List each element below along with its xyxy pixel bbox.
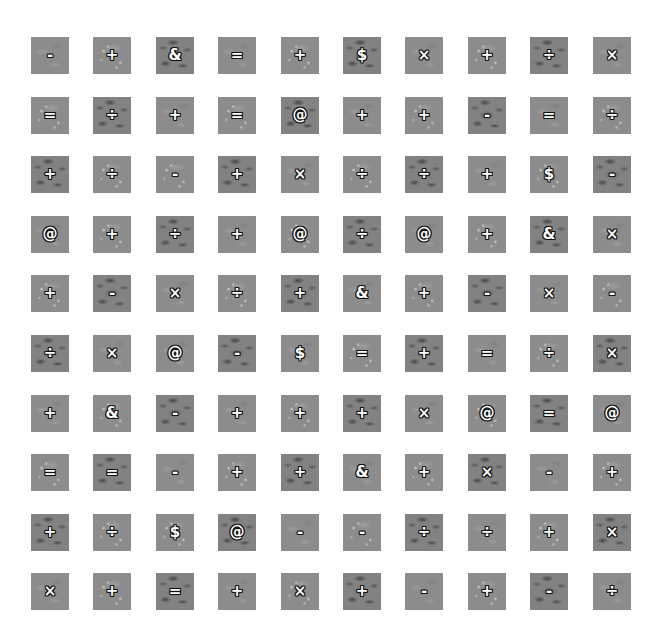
grid-tile[interactable]: - <box>593 156 631 193</box>
grid-tile[interactable]: + <box>156 97 194 134</box>
grid-tile[interactable]: + <box>31 156 69 193</box>
grid-tile[interactable]: & <box>156 37 194 74</box>
grid-tile[interactable]: - <box>530 573 568 610</box>
grid-tile[interactable]: ÷ <box>31 335 69 372</box>
grid-tile[interactable]: - <box>530 454 568 491</box>
grid-tile[interactable]: + <box>31 275 69 312</box>
grid-tile[interactable]: - <box>468 97 506 134</box>
grid-tile[interactable]: & <box>343 454 381 491</box>
grid-tile[interactable]: + <box>281 454 319 491</box>
grid-tile[interactable]: @ <box>593 395 631 432</box>
grid-tile[interactable]: + <box>281 37 319 74</box>
grid-tile[interactable]: × <box>31 573 69 610</box>
grid-tile[interactable]: ÷ <box>218 275 256 312</box>
grid-tile[interactable]: = <box>218 97 256 134</box>
grid-tile[interactable]: ÷ <box>530 37 568 74</box>
grid-tile[interactable]: $ <box>281 335 319 372</box>
grid-tile[interactable]: - <box>31 37 69 74</box>
grid-tile[interactable]: @ <box>405 216 443 253</box>
grid-tile[interactable]: + <box>343 97 381 134</box>
grid-tile[interactable]: + <box>218 454 256 491</box>
grid-tile[interactable]: + <box>31 395 69 432</box>
grid-tile[interactable]: $ <box>530 156 568 193</box>
grid-tile[interactable]: - <box>593 275 631 312</box>
grid-tile[interactable]: = <box>468 335 506 372</box>
grid-tile[interactable]: @ <box>218 514 256 551</box>
grid-tile[interactable]: = <box>530 395 568 432</box>
grid-tile[interactable]: + <box>93 37 131 74</box>
grid-tile[interactable]: ÷ <box>93 97 131 134</box>
grid-tile[interactable]: $ <box>156 514 194 551</box>
grid-tile[interactable]: ÷ <box>593 97 631 134</box>
grid-tile[interactable]: $ <box>343 37 381 74</box>
grid-tile[interactable]: ÷ <box>405 514 443 551</box>
grid-tile[interactable]: @ <box>156 335 194 372</box>
grid-tile[interactable]: + <box>405 97 443 134</box>
grid-tile[interactable]: × <box>93 335 131 372</box>
grid-tile[interactable]: - <box>343 514 381 551</box>
grid-tile[interactable]: @ <box>468 395 506 432</box>
grid-tile[interactable]: = <box>93 454 131 491</box>
grid-tile[interactable]: = <box>218 37 256 74</box>
grid-tile[interactable]: + <box>593 454 631 491</box>
grid-tile[interactable]: = <box>31 97 69 134</box>
grid-tile[interactable]: @ <box>31 216 69 253</box>
grid-tile[interactable]: + <box>93 216 131 253</box>
grid-tile[interactable]: + <box>218 573 256 610</box>
grid-tile[interactable]: ÷ <box>530 335 568 372</box>
grid-tile[interactable]: + <box>405 335 443 372</box>
grid-tile[interactable]: × <box>405 395 443 432</box>
grid-tile[interactable]: ÷ <box>593 573 631 610</box>
grid-tile[interactable]: × <box>593 514 631 551</box>
grid-tile[interactable]: × <box>593 37 631 74</box>
grid-tile[interactable]: ÷ <box>93 156 131 193</box>
grid-tile[interactable]: = <box>31 454 69 491</box>
grid-tile[interactable]: - <box>405 573 443 610</box>
grid-tile[interactable]: & <box>343 275 381 312</box>
grid-tile[interactable]: & <box>530 216 568 253</box>
grid-tile[interactable]: + <box>468 216 506 253</box>
grid-tile[interactable]: × <box>281 573 319 610</box>
grid-tile[interactable]: + <box>343 395 381 432</box>
grid-tile[interactable]: × <box>405 37 443 74</box>
grid-tile[interactable]: + <box>31 514 69 551</box>
grid-tile[interactable]: @ <box>281 216 319 253</box>
grid-tile[interactable]: + <box>218 156 256 193</box>
grid-tile[interactable]: - <box>218 335 256 372</box>
grid-tile[interactable]: ÷ <box>93 514 131 551</box>
grid-tile[interactable]: + <box>218 216 256 253</box>
grid-tile[interactable]: + <box>468 573 506 610</box>
grid-tile[interactable]: + <box>468 156 506 193</box>
grid-tile[interactable]: × <box>530 275 568 312</box>
grid-tile[interactable]: - <box>156 156 194 193</box>
grid-tile[interactable]: + <box>281 395 319 432</box>
grid-tile[interactable]: & <box>93 395 131 432</box>
grid-tile[interactable]: × <box>593 216 631 253</box>
grid-tile[interactable]: + <box>343 573 381 610</box>
grid-tile[interactable]: ÷ <box>343 216 381 253</box>
grid-tile[interactable]: = <box>530 97 568 134</box>
grid-tile[interactable]: × <box>156 275 194 312</box>
grid-tile[interactable]: + <box>281 275 319 312</box>
grid-tile[interactable]: ÷ <box>405 156 443 193</box>
grid-tile[interactable]: ÷ <box>343 156 381 193</box>
grid-tile[interactable]: - <box>468 275 506 312</box>
grid-tile[interactable]: - <box>93 275 131 312</box>
grid-tile[interactable]: + <box>405 454 443 491</box>
grid-tile[interactable]: ÷ <box>156 216 194 253</box>
grid-tile[interactable]: + <box>468 37 506 74</box>
grid-tile[interactable]: + <box>218 395 256 432</box>
grid-tile[interactable]: - <box>281 514 319 551</box>
grid-tile[interactable]: - <box>156 454 194 491</box>
grid-tile[interactable]: @ <box>281 97 319 134</box>
grid-tile[interactable]: = <box>343 335 381 372</box>
grid-tile[interactable]: × <box>281 156 319 193</box>
grid-tile[interactable]: × <box>468 454 506 491</box>
grid-tile[interactable]: + <box>530 514 568 551</box>
grid-tile[interactable]: + <box>405 275 443 312</box>
grid-tile[interactable]: × <box>593 335 631 372</box>
grid-tile[interactable]: ÷ <box>468 514 506 551</box>
grid-tile[interactable]: + <box>93 573 131 610</box>
grid-tile[interactable]: - <box>156 395 194 432</box>
grid-tile[interactable]: = <box>156 573 194 610</box>
